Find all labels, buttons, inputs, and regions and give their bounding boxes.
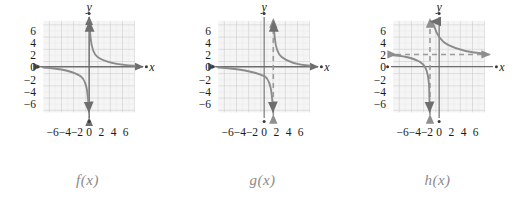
xtick-label: 2 bbox=[98, 126, 104, 138]
xtick-label: 4 bbox=[461, 126, 467, 138]
ytick-label: −6 bbox=[374, 98, 386, 110]
ytick-labels-g: 6 4 2 0 −2 −4 −6 bbox=[199, 25, 212, 110]
xtick-label: 2 bbox=[448, 126, 454, 138]
x-axis-label-h: x bbox=[498, 60, 505, 74]
graph-panel-g: 6 4 2 0 −2 −4 −6 −6 −4 −2 0 2 4 6 x y g(… bbox=[175, 0, 350, 209]
xtick-label: 4 bbox=[111, 126, 117, 138]
ytick-label: 6 bbox=[205, 25, 211, 37]
xtick-label: 2 bbox=[273, 126, 279, 138]
ytick-label: −6 bbox=[199, 98, 211, 110]
ytick-label: 0 bbox=[380, 61, 386, 73]
ytick-label: −2 bbox=[374, 74, 386, 86]
xtick-label: 0 bbox=[86, 126, 92, 138]
xtick-label: −4 bbox=[59, 126, 71, 138]
ytick-label: −2 bbox=[199, 74, 211, 86]
ytick-label: 4 bbox=[205, 37, 211, 49]
y-axis-label-h: y bbox=[435, 0, 442, 14]
xtick-label: 0 bbox=[436, 126, 442, 138]
xtick-label: −6 bbox=[46, 126, 58, 138]
ytick-label: 2 bbox=[30, 49, 36, 61]
y-axis-label-f: y bbox=[85, 0, 92, 14]
ytick-label: −4 bbox=[374, 86, 386, 98]
ytick-label: 0 bbox=[205, 61, 211, 73]
ytick-labels-f: 6 4 2 0 −2 −4 −6 bbox=[24, 25, 37, 110]
xtick-labels-g: −6 −4 −2 0 2 4 6 bbox=[221, 126, 303, 138]
ytick-label: 0 bbox=[30, 61, 36, 73]
panel-caption-h: h(x) bbox=[350, 172, 525, 189]
ytick-label: 6 bbox=[380, 25, 386, 37]
plot-svg-h: 6 4 2 0 −2 −4 −6 −6 −4 −2 0 2 4 6 x y bbox=[350, 0, 525, 175]
ytick-label: 2 bbox=[380, 49, 386, 61]
three-rational-function-graphs: 6 4 2 0 −2 −4 −6 −6 −4 −2 0 2 4 6 x y bbox=[0, 0, 525, 209]
ytick-label: 4 bbox=[30, 37, 36, 49]
xtick-label: −2 bbox=[71, 126, 83, 138]
x-axis-label-f: x bbox=[148, 60, 155, 74]
ytick-labels-h: 6 4 2 0 −2 −4 −6 bbox=[374, 25, 387, 110]
xtick-label: 6 bbox=[123, 126, 129, 138]
xtick-label: 0 bbox=[261, 126, 267, 138]
xtick-label: −6 bbox=[396, 126, 408, 138]
plot-svg-f: 6 4 2 0 −2 −4 −6 −6 −4 −2 0 2 4 6 x y bbox=[0, 0, 175, 175]
xtick-label: −2 bbox=[246, 126, 258, 138]
y-axis-label-g: y bbox=[260, 0, 267, 14]
xtick-label: 6 bbox=[473, 126, 479, 138]
ytick-label: 2 bbox=[205, 49, 211, 61]
xtick-label: −2 bbox=[421, 126, 433, 138]
ytick-label: −4 bbox=[199, 86, 211, 98]
xtick-label: −4 bbox=[234, 126, 246, 138]
ytick-label: 4 bbox=[380, 37, 386, 49]
panel-caption-g: g(x) bbox=[175, 172, 350, 189]
x-axis-label-g: x bbox=[323, 60, 330, 74]
ytick-label: −4 bbox=[24, 86, 36, 98]
graph-panel-f: 6 4 2 0 −2 −4 −6 −6 −4 −2 0 2 4 6 x y bbox=[0, 0, 175, 209]
ytick-label: −2 bbox=[24, 74, 36, 86]
xtick-labels-f: −6 −4 −2 0 2 4 6 bbox=[46, 126, 128, 138]
panel-caption-f: f(x) bbox=[0, 172, 175, 189]
ytick-label: −6 bbox=[24, 98, 36, 110]
xtick-labels-h: −6 −4 −2 0 2 4 6 bbox=[396, 126, 478, 138]
xtick-label: 6 bbox=[298, 126, 304, 138]
xtick-label: 4 bbox=[286, 126, 292, 138]
xtick-label: −4 bbox=[409, 126, 421, 138]
xtick-label: −6 bbox=[221, 126, 233, 138]
graph-panel-h: 6 4 2 0 −2 −4 −6 −6 −4 −2 0 2 4 6 x y h(… bbox=[350, 0, 525, 209]
ytick-label: 6 bbox=[30, 25, 36, 37]
plot-svg-g: 6 4 2 0 −2 −4 −6 −6 −4 −2 0 2 4 6 x y bbox=[175, 0, 350, 175]
